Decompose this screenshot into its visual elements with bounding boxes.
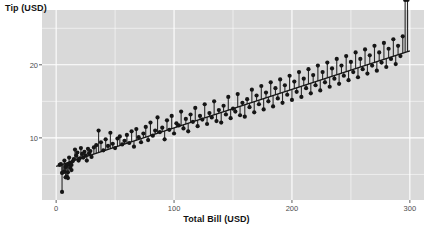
data-point bbox=[72, 157, 76, 161]
x-tick-label: 300 bbox=[404, 204, 417, 213]
data-point bbox=[198, 114, 202, 118]
data-point bbox=[82, 150, 86, 154]
data-point bbox=[85, 158, 89, 162]
data-point bbox=[229, 116, 233, 120]
data-point bbox=[328, 85, 332, 89]
data-point bbox=[252, 110, 256, 114]
y-tick-label: 10 bbox=[18, 133, 38, 142]
data-point bbox=[158, 130, 162, 134]
data-point bbox=[139, 140, 143, 144]
data-point bbox=[165, 118, 169, 122]
data-point bbox=[304, 86, 308, 90]
data-point bbox=[89, 155, 93, 159]
data-point bbox=[287, 74, 291, 78]
data-point bbox=[101, 148, 105, 152]
data-point bbox=[243, 115, 247, 119]
data-point bbox=[269, 80, 273, 84]
data-point bbox=[273, 86, 277, 90]
data-point bbox=[370, 63, 374, 67]
data-point bbox=[398, 54, 402, 58]
data-point bbox=[151, 134, 155, 138]
data-point bbox=[111, 142, 115, 146]
data-point bbox=[212, 99, 216, 103]
data-point bbox=[311, 73, 315, 77]
data-point bbox=[302, 77, 306, 81]
data-point bbox=[332, 77, 336, 81]
data-point bbox=[118, 134, 122, 138]
data-point bbox=[377, 50, 381, 54]
data-point bbox=[323, 80, 327, 84]
data-point bbox=[283, 83, 287, 87]
data-point bbox=[346, 78, 350, 82]
data-point bbox=[365, 71, 369, 75]
data-point bbox=[297, 70, 301, 74]
data-point bbox=[132, 145, 136, 149]
data-point bbox=[358, 57, 362, 61]
data-point bbox=[262, 107, 266, 111]
data-point bbox=[163, 137, 167, 141]
data-point bbox=[266, 99, 270, 103]
data-point bbox=[153, 128, 157, 132]
data-point bbox=[280, 101, 284, 105]
data-point bbox=[137, 135, 141, 139]
data-point bbox=[134, 127, 138, 131]
data-point bbox=[196, 124, 200, 128]
data-point bbox=[186, 129, 190, 133]
data-point bbox=[245, 97, 249, 101]
data-point bbox=[361, 67, 365, 71]
data-point bbox=[342, 74, 346, 78]
data-point bbox=[59, 162, 63, 166]
data-point bbox=[372, 44, 376, 48]
data-point bbox=[78, 156, 82, 160]
data-point bbox=[67, 156, 71, 160]
data-point bbox=[401, 34, 405, 38]
data-point bbox=[306, 67, 310, 71]
data-point bbox=[148, 120, 152, 124]
data-point bbox=[271, 104, 275, 108]
data-point bbox=[210, 115, 214, 119]
data-point bbox=[337, 82, 341, 86]
data-point bbox=[238, 113, 242, 117]
data-point bbox=[321, 70, 325, 74]
data-point bbox=[276, 96, 280, 100]
data-point bbox=[155, 115, 159, 119]
plot-canvas bbox=[0, 0, 433, 234]
data-point bbox=[167, 128, 171, 132]
data-point bbox=[79, 146, 83, 150]
data-point bbox=[264, 90, 268, 94]
data-point bbox=[325, 61, 329, 65]
data-point bbox=[200, 118, 204, 122]
residual-scatter-chart: Tip (USD) Total Bill (USD) 1020 01002003… bbox=[0, 0, 433, 234]
data-point bbox=[130, 129, 134, 133]
data-point bbox=[316, 63, 320, 67]
data-point bbox=[240, 101, 244, 105]
x-tick-label: 100 bbox=[168, 204, 181, 213]
data-point bbox=[295, 90, 299, 94]
data-point bbox=[75, 150, 79, 154]
data-point bbox=[247, 105, 251, 109]
data-point bbox=[184, 117, 188, 121]
data-point bbox=[104, 137, 108, 141]
data-point bbox=[391, 37, 395, 41]
data-point bbox=[339, 63, 343, 67]
data-point bbox=[141, 131, 145, 135]
data-point bbox=[379, 61, 383, 65]
data-point bbox=[181, 126, 185, 130]
data-point bbox=[257, 102, 261, 106]
data-point bbox=[69, 168, 73, 172]
data-point bbox=[96, 128, 100, 132]
data-point bbox=[207, 111, 211, 115]
x-tick-label: 0 bbox=[54, 204, 58, 213]
data-point bbox=[318, 88, 322, 92]
data-point bbox=[203, 102, 207, 106]
data-point bbox=[66, 176, 70, 180]
data-point bbox=[299, 95, 303, 99]
data-point bbox=[60, 190, 64, 194]
data-point bbox=[125, 133, 129, 137]
data-point bbox=[62, 169, 66, 173]
data-point bbox=[214, 119, 218, 123]
data-point bbox=[122, 139, 126, 143]
y-axis-title: Tip (USD) bbox=[5, 3, 47, 13]
data-point bbox=[188, 112, 192, 116]
data-point bbox=[254, 93, 258, 97]
